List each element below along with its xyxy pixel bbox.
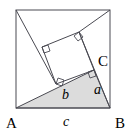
construction-line-top-left — [16, 10, 56, 84]
side-label-a: a — [94, 82, 101, 97]
vertex-label-b: B — [115, 115, 125, 131]
geometry-canvas: A B C a b c — [0, 0, 133, 135]
vertex-label-a: A — [6, 115, 17, 131]
side-label-b: b — [62, 87, 69, 102]
construction-line-top-right — [79, 10, 110, 32]
side-label-c: c — [63, 114, 70, 129]
vertex-label-c: C — [98, 53, 108, 69]
geometry-figure: A B C a b c — [0, 0, 133, 135]
